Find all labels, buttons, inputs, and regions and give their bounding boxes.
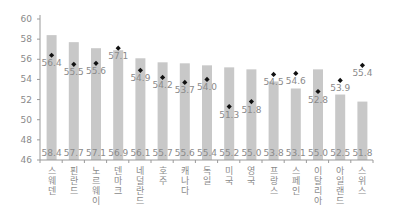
y-tick-label: 52 bbox=[21, 95, 32, 105]
category-label: 덴 bbox=[48, 186, 56, 196]
category-label: 이 bbox=[314, 166, 322, 176]
category-label: 스 bbox=[358, 166, 366, 176]
y-tick-label: 58 bbox=[21, 34, 33, 44]
category-label: 호 bbox=[159, 166, 167, 176]
category-label: 크 bbox=[114, 186, 122, 196]
category-label: 드 bbox=[70, 186, 78, 196]
category-label: 웨 bbox=[48, 175, 56, 186]
category-label: 드 bbox=[336, 196, 344, 205]
bar-value-label: 55.0 bbox=[308, 148, 328, 158]
category-label: 캐 bbox=[181, 166, 189, 176]
category-label: 덜 bbox=[136, 175, 144, 186]
bar-value-label: 57.1 bbox=[86, 148, 106, 158]
category-label: 핀 bbox=[70, 166, 78, 176]
bar bbox=[180, 63, 190, 160]
category-label: 리 bbox=[314, 186, 322, 196]
point-value-label: 51.3 bbox=[219, 110, 239, 120]
bar-chart: 4648505254565860 58.457.757.156.956.155.… bbox=[0, 0, 393, 205]
diamond-marker-icon bbox=[293, 71, 298, 76]
category-label: 스 bbox=[270, 186, 278, 196]
point-value-label: 53.9 bbox=[330, 83, 350, 93]
bar bbox=[69, 42, 79, 160]
category-label: 위 bbox=[358, 176, 366, 186]
category-label: 페 bbox=[292, 176, 300, 186]
bar-value-label: 55.0 bbox=[241, 148, 261, 158]
category-label: 탈 bbox=[314, 176, 322, 186]
bar-value-label: 55.6 bbox=[175, 148, 195, 158]
category-label: 란 bbox=[70, 175, 78, 186]
bar-value-label: 56.9 bbox=[108, 148, 128, 158]
category-label: 일 bbox=[336, 176, 344, 186]
category-label: 랑 bbox=[270, 175, 278, 186]
point-value-label: 54.9 bbox=[130, 73, 150, 83]
point-value-label: 53.7 bbox=[175, 85, 195, 95]
bar-value-label: 52.5 bbox=[330, 148, 350, 158]
point-value-label: 55.4 bbox=[352, 68, 372, 78]
category-label: 인 bbox=[292, 186, 300, 196]
point-value-label: 55.6 bbox=[86, 66, 106, 76]
category-label: 드 bbox=[136, 196, 144, 205]
category-label: 국 bbox=[225, 176, 233, 186]
category-label: 노 bbox=[92, 166, 100, 176]
bar-value-label: 55.2 bbox=[219, 148, 239, 158]
bar-value-label: 53.1 bbox=[286, 148, 306, 158]
bar-value-label: 51.8 bbox=[352, 148, 372, 158]
point-value-label: 54.6 bbox=[286, 76, 306, 86]
bar bbox=[313, 69, 323, 160]
diamond-marker-icon bbox=[116, 46, 121, 51]
category-label: 다 bbox=[181, 186, 190, 196]
point-value-label: 56.4 bbox=[42, 58, 62, 68]
bar-value-label: 58.4 bbox=[42, 148, 62, 158]
y-tick-label: 48 bbox=[21, 135, 33, 145]
category-label: 일 bbox=[203, 176, 211, 186]
diamond-marker-icon bbox=[360, 63, 365, 68]
point-value-label: 51.8 bbox=[241, 105, 261, 115]
category-label: 이 bbox=[92, 196, 100, 205]
category-label: 스 bbox=[292, 166, 300, 176]
point-value-label: 55.5 bbox=[64, 67, 84, 77]
y-tick-label: 50 bbox=[21, 115, 33, 125]
bar bbox=[246, 69, 256, 160]
x-axis: 스웨덴핀란드노르웨이덴마크네덜란드호주캐나다독일미국영국프랑스스페인이탈리아아일… bbox=[40, 160, 373, 205]
bar-value-label: 57.7 bbox=[64, 148, 84, 158]
y-tick-label: 54 bbox=[21, 74, 33, 84]
diamond-marker-icon bbox=[271, 72, 276, 77]
bar-value-label: 55.4 bbox=[197, 148, 217, 158]
category-label: 란 bbox=[136, 185, 144, 196]
point-value-label: 54.2 bbox=[153, 80, 173, 90]
category-label: 주 bbox=[159, 176, 167, 186]
y-axis: 4648505254565860 bbox=[21, 14, 40, 165]
category-label: 덴 bbox=[114, 166, 122, 176]
category-label: 프 bbox=[270, 166, 278, 176]
category-label: 나 bbox=[181, 176, 189, 186]
bar bbox=[113, 50, 123, 160]
category-label: 아 bbox=[336, 166, 345, 176]
y-tick-label: 46 bbox=[21, 155, 33, 165]
category-label: 마 bbox=[114, 176, 123, 186]
category-label: 아 bbox=[314, 196, 323, 205]
category-label: 국 bbox=[247, 176, 255, 186]
bar-value-label: 53.8 bbox=[264, 148, 284, 158]
category-label: 스 bbox=[48, 166, 56, 176]
point-value-label: 52.8 bbox=[308, 95, 328, 105]
point-value-label: 54.5 bbox=[264, 77, 284, 87]
category-label: 미 bbox=[225, 166, 233, 176]
category-label: 르 bbox=[92, 176, 100, 186]
point-value-label: 54.0 bbox=[197, 82, 217, 92]
y-tick-label: 56 bbox=[21, 54, 33, 64]
category-label: 영 bbox=[247, 166, 255, 176]
diamond-marker-icon bbox=[338, 78, 343, 83]
category-label: 랜 bbox=[336, 186, 344, 196]
category-label: 독 bbox=[203, 166, 211, 176]
category-label: 스 bbox=[358, 186, 366, 196]
point-value-label: 57.1 bbox=[108, 51, 128, 61]
category-label: 웨 bbox=[92, 185, 100, 196]
bar-value-label: 56.1 bbox=[130, 148, 150, 158]
y-tick-label: 60 bbox=[21, 14, 33, 24]
category-label: 네 bbox=[136, 166, 144, 176]
bar-value-label: 55.7 bbox=[153, 148, 173, 158]
